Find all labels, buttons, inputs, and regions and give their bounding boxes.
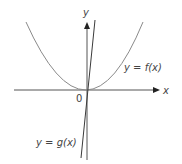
function-graph: y x 0 y = f(x) y = g(x) <box>0 0 182 164</box>
curve-f-label: y = f(x) <box>123 62 162 73</box>
origin-label: 0 <box>76 93 82 104</box>
line-g-label: y = g(x) <box>35 137 77 148</box>
x-axis-label: x <box>162 85 169 96</box>
y-axis-arrow-icon <box>84 22 90 29</box>
y-axis-label: y <box>82 7 90 18</box>
x-axis-arrow-icon <box>153 87 160 93</box>
curve-f <box>26 22 143 90</box>
